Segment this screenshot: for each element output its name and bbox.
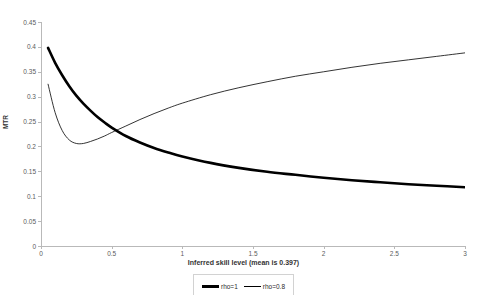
y-tick-label: 0.3 bbox=[2, 93, 36, 100]
y-axis-title: MTR bbox=[2, 102, 10, 142]
y-tick-label: 0.35 bbox=[2, 68, 36, 75]
x-tick-mark bbox=[394, 246, 395, 249]
y-tick-label: 0.4 bbox=[2, 43, 36, 50]
x-tick-label: 1.5 bbox=[233, 250, 273, 258]
y-tick-label: 0.05 bbox=[2, 218, 36, 225]
legend-label: rho=1 bbox=[221, 283, 238, 291]
x-tick-mark bbox=[112, 246, 113, 249]
x-tick-mark bbox=[253, 246, 254, 249]
x-tick-label: 1 bbox=[162, 250, 202, 258]
chart-title bbox=[0, 0, 487, 2]
y-tick-label: 0.1 bbox=[2, 193, 36, 200]
y-tick-label: 0 bbox=[2, 243, 36, 250]
legend-label: rho=0.8 bbox=[263, 283, 285, 291]
legend-entry[interactable]: rho=0.8 bbox=[244, 277, 285, 295]
x-tick-label: 3 bbox=[445, 250, 485, 258]
y-tick-label: 0.15 bbox=[2, 168, 36, 175]
series-line-rho-0-8 bbox=[48, 53, 465, 144]
chart-legend: rho=1rho=0.8 bbox=[0, 274, 487, 295]
plot-area bbox=[41, 22, 465, 246]
x-tick-mark bbox=[465, 246, 466, 249]
legend-swatch-thin bbox=[244, 286, 261, 287]
x-tick-label: 2.5 bbox=[374, 250, 414, 258]
legend-box: rho=1rho=0.8 bbox=[193, 274, 294, 295]
x-tick-mark bbox=[41, 246, 42, 249]
x-tick-mark bbox=[182, 246, 183, 249]
x-tick-label: 0.5 bbox=[92, 250, 132, 258]
y-tick-label: 0.2 bbox=[2, 143, 36, 150]
y-tick-label: 0.45 bbox=[2, 19, 36, 26]
chart-container: 00.050.10.150.20.250.30.350.40.45 00.511… bbox=[0, 0, 487, 295]
x-tick-mark bbox=[324, 246, 325, 249]
x-axis-title: Inferred skill level (mean is 0.397) bbox=[0, 258, 487, 267]
legend-entry[interactable]: rho=1 bbox=[202, 277, 238, 295]
x-tick-label: 0 bbox=[21, 250, 61, 258]
series-line-rho-1 bbox=[48, 48, 465, 187]
legend-swatch-thick bbox=[202, 285, 219, 288]
x-tick-label: 2 bbox=[304, 250, 344, 258]
series-lines bbox=[41, 22, 465, 246]
